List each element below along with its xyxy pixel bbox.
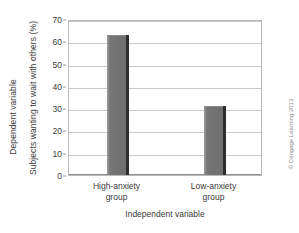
y-axis-tick-mark [63, 109, 66, 110]
x-axis-tick-label-line: High-anxiety [93, 181, 140, 192]
bar-front-face [204, 106, 223, 175]
y-axis-tick-label: 30 [53, 104, 62, 114]
gridline [69, 21, 261, 22]
x-axis-tick-label: Low-anxietygroup [191, 181, 236, 203]
y-axis-tick-mark [63, 20, 66, 21]
y-axis-label: Subjects wanting to wait with others (%) [26, 18, 40, 178]
copyright-text: © Cengage Learning 2013 [288, 99, 294, 169]
gridline [69, 155, 261, 156]
x-axis-tick-label: High-anxietygroup [93, 181, 140, 203]
gridline [69, 132, 261, 133]
y-axis-label-text: Subjects wanting to wait with others (%) [28, 21, 38, 175]
y-axis-tick-mark [63, 153, 66, 154]
x-axis-tick-labels: High-anxietygroupLow-anxietygroup [68, 179, 262, 205]
y-axis-tick-mark [63, 64, 66, 65]
y-axis-tick-label: 50 [53, 60, 62, 70]
bar-side-face [126, 35, 129, 175]
x-axis-baseline [69, 174, 261, 175]
gridline [69, 88, 261, 89]
bar [107, 35, 129, 175]
x-axis-tick-label-line: group [191, 192, 236, 203]
bar-chart-figure: Dependent variable Subjects wanting to w… [0, 0, 299, 233]
gridline [69, 66, 261, 67]
gridline [69, 43, 261, 44]
bar-side-face [223, 106, 226, 175]
y-axis-tick-mark [63, 42, 66, 43]
dependent-variable-caption: Dependent variable [6, 0, 20, 233]
y-axis-tick-mark [63, 86, 66, 87]
bar [204, 106, 226, 175]
y-axis-tick-label: 0 [57, 171, 62, 181]
gridline [69, 110, 261, 111]
y-axis-tick-mark [63, 131, 66, 132]
x-axis-title: Independent variable [68, 209, 262, 219]
y-axis-tick-label: 10 [53, 149, 62, 159]
x-axis-tick-label-line: group [93, 192, 140, 203]
y-axis-tick-mark [63, 176, 66, 177]
y-axis-tick-label: 20 [53, 126, 62, 136]
x-axis-tick-label-line: Low-anxiety [191, 181, 236, 192]
y-axis-tick-label: 40 [53, 82, 62, 92]
bar-front-face [107, 35, 126, 175]
y-axis-tick-label: 60 [53, 37, 62, 47]
copyright-notice: © Cengage Learning 2013 [285, 84, 297, 184]
plot-area [68, 20, 262, 176]
y-axis-tick-labels: 010203040506070 [44, 20, 66, 176]
dependent-variable-caption-text: Dependent variable [8, 79, 18, 155]
y-axis-tick-label: 70 [53, 15, 62, 25]
